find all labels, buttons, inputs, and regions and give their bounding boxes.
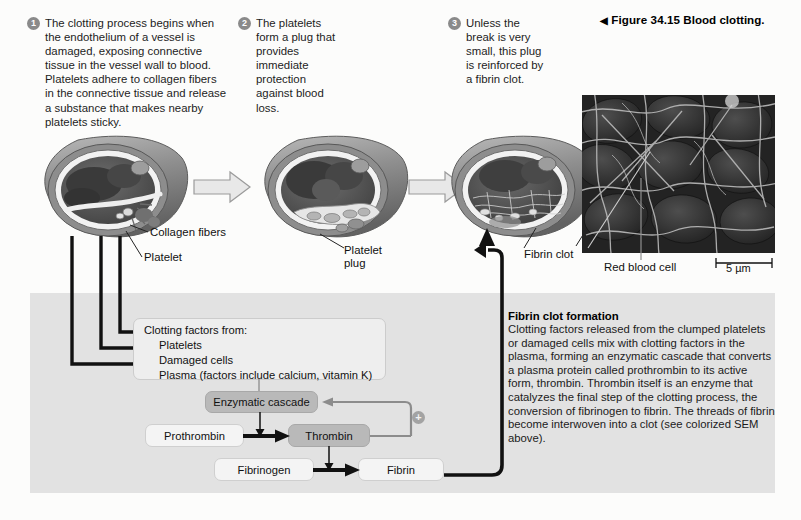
fibrin-clot-formation-body: Clotting factors released from the clump… <box>508 323 776 445</box>
step-1-text: The clotting process begins when the end… <box>45 16 227 129</box>
fibrin-clot-formation-block: Fibrin clot formation Clotting factors r… <box>508 310 776 445</box>
fibrin-clot-formation-title: Fibrin clot formation <box>508 310 776 322</box>
clotting-factor-platelets: Platelets <box>159 339 202 351</box>
clotting-factor-damaged-cells: Damaged cells <box>159 354 233 366</box>
figure-title: Blood clotting. <box>683 13 764 26</box>
fibrin-to-vessel-arrow <box>436 230 506 475</box>
figure-caption: ◀ Figure 34.15 Blood clotting. <box>600 13 764 26</box>
step-1-number: 1 <box>27 17 40 30</box>
step-3-text: Unless the break is very small, this plu… <box>466 16 546 86</box>
step-2: 2 The platelets form a plug that provide… <box>238 16 343 115</box>
thrombin-feedback-loop <box>315 396 420 440</box>
step-3: 3 Unless the break is very small, this p… <box>448 16 546 86</box>
prothrombin-to-thrombin-arrow <box>243 428 293 444</box>
red-blood-cell-pointer <box>636 178 648 260</box>
positive-feedback-icon: + <box>412 411 425 424</box>
label-fibrin-clot: Fibrin clot <box>524 248 573 261</box>
step-2-number: 2 <box>238 17 251 30</box>
step-1: 1 The clotting process begins when the e… <box>27 16 227 129</box>
flow-box-fibrinogen: Fibrinogen <box>214 458 314 481</box>
flow-box-fibrin: Fibrin <box>358 458 444 481</box>
clotting-factors-box: Clotting factors from: Platelets Damaged… <box>133 318 386 380</box>
fibrinogen-to-fibrin-arrow <box>313 462 363 478</box>
figure-number: Figure 34.15 <box>611 13 680 26</box>
clotting-factors-title: Clotting factors from: <box>144 324 247 336</box>
fibrin-arrowhead-into-vessel <box>478 228 498 252</box>
label-red-blood-cell: Red blood cell <box>604 261 676 274</box>
step-3-number: 3 <box>448 17 461 30</box>
figure-page: 1 The clotting process begins when the e… <box>0 0 801 520</box>
step-2-text: The platelets form a plug that provides … <box>256 16 343 115</box>
scale-bar-label: 5 µm <box>726 262 751 274</box>
process-arrow-1 <box>192 170 254 204</box>
flow-box-enzymatic-cascade: Enzymatic cascade <box>205 391 318 413</box>
flow-box-prothrombin: Prothrombin <box>145 424 244 447</box>
caption-triangle-icon: ◀ <box>600 15 608 26</box>
vessel-illustration-2 <box>256 132 416 247</box>
